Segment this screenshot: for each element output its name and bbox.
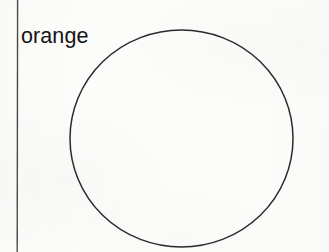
color-label: orange [21,24,89,48]
circle-outline [70,30,293,247]
figure-canvas: orange [0,0,329,252]
